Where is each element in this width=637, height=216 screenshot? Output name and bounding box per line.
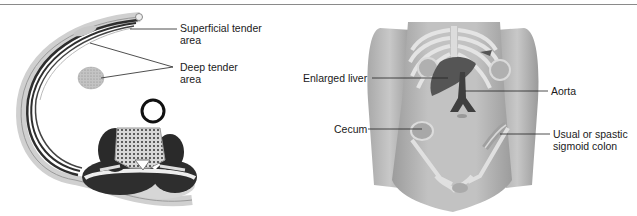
- label-line: area: [180, 73, 238, 85]
- label-aorta: Aorta: [551, 85, 576, 97]
- cross-section-panel: Superficial tender area Deep tender area: [0, 0, 300, 216]
- label-line: sigmoid colon: [553, 140, 628, 152]
- label-cecum: Cecum: [334, 123, 367, 135]
- label-enlarged-liver: Enlarged liver: [303, 72, 367, 84]
- label-line: Deep tender: [180, 61, 238, 73]
- deep-tender-area: [78, 67, 104, 89]
- label-superficial-tender-area: Superficial tender area: [180, 22, 262, 46]
- torso-illustration: [300, 0, 637, 216]
- cecum: [411, 122, 433, 140]
- label-sigmoid-colon: Usual or spastic sigmoid colon: [553, 128, 628, 152]
- label-line: Superficial tender: [180, 22, 262, 34]
- label-line: Usual or spastic: [553, 128, 628, 140]
- anterior-torso-panel: Enlarged liver Aorta Cecum Usual or spas…: [300, 0, 637, 216]
- ring-marker: [142, 100, 164, 122]
- label-deep-tender-area: Deep tender area: [180, 61, 238, 85]
- vertebra-section: [82, 128, 197, 199]
- label-line: area: [180, 34, 262, 46]
